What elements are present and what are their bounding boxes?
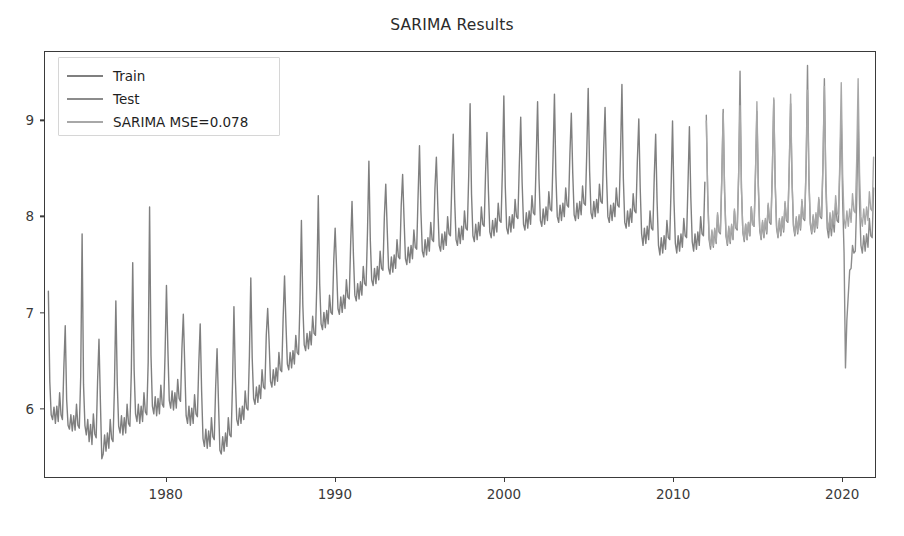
legend-color-swatch [67, 75, 103, 77]
y-tick-label: 8 [8, 208, 34, 224]
x-tick-mark [504, 478, 505, 482]
legend-label: SARIMA MSE=0.078 [113, 114, 248, 130]
legend-label: Train [113, 68, 145, 84]
legend-item: Test [67, 87, 140, 111]
series-line [706, 79, 873, 246]
x-tick-mark [673, 478, 674, 482]
legend-color-swatch [67, 121, 103, 123]
x-tick-mark [842, 478, 843, 482]
x-tick-mark [166, 478, 167, 482]
series-line [48, 85, 704, 459]
figure-canvas: SARIMA Results 6789 19801990200020102020… [0, 0, 904, 536]
chart-title: SARIMA Results [0, 16, 904, 34]
x-tick-label: 2010 [643, 486, 703, 502]
x-tick-label: 2020 [812, 486, 872, 502]
legend-label: Test [113, 91, 140, 107]
y-tick-label: 9 [8, 112, 34, 128]
legend-color-swatch [67, 98, 103, 100]
y-tick-label: 6 [8, 401, 34, 417]
x-tick-label: 2000 [474, 486, 534, 502]
legend-item: Train [67, 64, 145, 88]
x-tick-label: 1980 [136, 486, 196, 502]
x-tick-label: 1990 [305, 486, 365, 502]
y-tick-label: 7 [8, 305, 34, 321]
x-tick-mark [335, 478, 336, 482]
legend: TrainTestSARIMA MSE=0.078 [58, 57, 280, 136]
legend-item: SARIMA MSE=0.078 [67, 110, 248, 134]
